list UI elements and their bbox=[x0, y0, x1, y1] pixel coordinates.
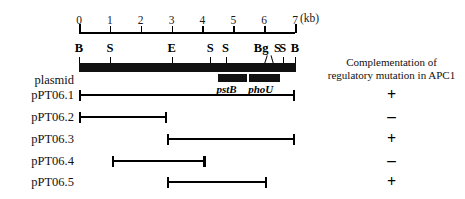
plasmid-row-label-pPT06.1: pPT06.1 bbox=[0, 88, 74, 102]
restriction-site-label-b-0: B bbox=[69, 42, 89, 55]
restriction-site-label-b-8: B bbox=[285, 42, 305, 55]
restriction-site-label-e-2: E bbox=[162, 42, 182, 55]
plasmid-row-label-pPT06.2: pPT06.2 bbox=[0, 110, 74, 124]
gene-box-phoU bbox=[249, 74, 280, 82]
plasmid-row-label-pPT06.3: pPT06.3 bbox=[0, 132, 74, 146]
fragment-bar-pPT06.3 bbox=[167, 138, 295, 140]
complementation-header-line1: Complementation of bbox=[318, 56, 465, 69]
fragment-cap-start-pPT06.5 bbox=[167, 177, 169, 188]
complementation-result-pPT06.2: – bbox=[318, 109, 465, 125]
fragment-cap-start-pPT06.2 bbox=[79, 112, 81, 123]
fragment-cap-end-pPT06.3 bbox=[293, 134, 295, 145]
fragment-bar-pPT06.1 bbox=[79, 94, 295, 96]
plasmid-row-label-pPT06.4: pPT06.4 bbox=[0, 154, 74, 168]
restriction-site-label-s-4: S bbox=[216, 42, 236, 55]
plasmid-map-figure: 01234567 (kb) BSESSBgSSB pstBphoU plasmi… bbox=[0, 0, 465, 199]
fragment-cap-end-pPT06.5 bbox=[265, 177, 267, 188]
fragment-bar-pPT06.5 bbox=[167, 181, 267, 183]
gene-box-pstB bbox=[218, 74, 247, 82]
plasmid-row-label-pPT06.5: pPT06.5 bbox=[0, 175, 74, 189]
fragment-bar-pPT06.4 bbox=[112, 160, 206, 162]
restriction-site-label-s-1: S bbox=[100, 42, 120, 55]
fragment-cap-start-pPT06.4 bbox=[112, 156, 114, 167]
fragment-cap-end-pPT06.4 bbox=[203, 156, 205, 167]
plasmid-backbone-bar bbox=[79, 63, 296, 72]
complementation-result-pPT06.4: – bbox=[318, 153, 465, 169]
fragment-cap-start-pPT06.3 bbox=[167, 134, 169, 145]
fragment-bar-pPT06.2 bbox=[79, 116, 167, 118]
fragment-cap-end-pPT06.2 bbox=[165, 112, 167, 123]
complementation-result-pPT06.1: + bbox=[318, 87, 465, 103]
fragment-cap-end-pPT06.1 bbox=[293, 90, 295, 101]
plasmid-column-header: plasmid bbox=[0, 73, 74, 87]
complementation-result-pPT06.3: + bbox=[318, 131, 465, 147]
complementation-column-header: Complementation of regulatory mutation i… bbox=[318, 56, 465, 82]
fragment-cap-start-pPT06.1 bbox=[79, 90, 81, 101]
complementation-result-pPT06.5: + bbox=[318, 174, 465, 190]
complementation-header-line2: regulatory mutation in APC1 bbox=[318, 69, 465, 82]
